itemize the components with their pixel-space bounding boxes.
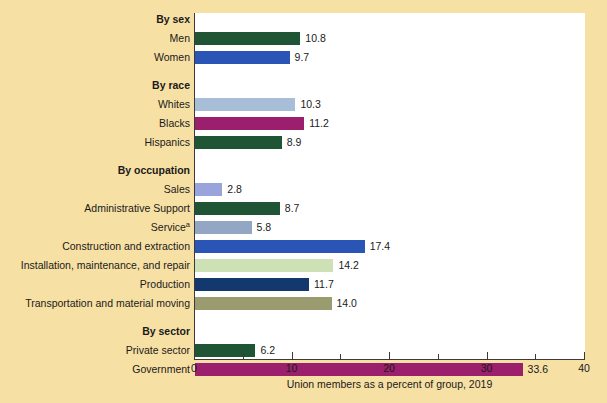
- chart-bar-row: Servicea5.8: [0, 221, 607, 234]
- chart-group-heading-row: By sector: [0, 325, 607, 338]
- bar-value-label: 9.7: [295, 51, 310, 64]
- chart-bar-row: Administrative Support8.7: [0, 202, 607, 215]
- bar-value-label: 33.6: [528, 363, 548, 376]
- bar-value-label: 11.7: [314, 278, 334, 291]
- x-axis-minor-tick: [535, 354, 536, 359]
- chart-bar-row: Private sector6.2: [0, 344, 607, 357]
- x-axis-tick-label: 40: [564, 362, 604, 374]
- bar-value-label: 17.4: [370, 240, 390, 253]
- bar-value-label: 10.3: [300, 98, 320, 111]
- bar-category-label: Government: [0, 363, 190, 376]
- bar: [195, 297, 332, 310]
- bar: [195, 32, 300, 45]
- bar-value-label: 14.2: [338, 259, 358, 272]
- bar-category-label: Hispanics: [0, 136, 190, 149]
- x-axis-title: Union members as a percent of group, 201…: [194, 378, 585, 390]
- bar-value-label: 2.8: [227, 183, 242, 196]
- bar-category-label: Private sector: [0, 344, 190, 357]
- chart-rows: By sexMen10.8Women9.7By raceWhites10.3Bl…: [0, 13, 607, 360]
- bar-category-label: Transportation and material moving: [0, 297, 190, 310]
- bar: [195, 259, 333, 272]
- chart-bar-row: Men10.8: [0, 32, 607, 45]
- bar-value-label: 5.8: [257, 221, 272, 234]
- bar: [195, 51, 290, 64]
- union-membership-bar-chart: By sexMen10.8Women9.7By raceWhites10.3Bl…: [0, 0, 607, 403]
- y-axis-line: [194, 13, 195, 360]
- bar-value-label: 10.8: [305, 32, 325, 45]
- bar-category-label: Servicea: [0, 221, 190, 234]
- bar-value-label: 8.7: [285, 202, 300, 215]
- bar-category-label: Production: [0, 278, 190, 291]
- bar-category-label: Men: [0, 32, 190, 45]
- chart-bar-row: Transportation and material moving14.0: [0, 297, 607, 310]
- group-heading-label: By sex: [0, 13, 190, 26]
- bar-value-label: 11.2: [309, 117, 329, 130]
- bar-value-label: 8.9: [287, 136, 302, 149]
- chart-bar-row: Whites10.3: [0, 98, 607, 111]
- x-axis-tick: [584, 352, 585, 359]
- x-axis-tick: [292, 352, 293, 359]
- bar: [195, 240, 365, 253]
- chart-group-heading-row: By sex: [0, 13, 607, 26]
- group-heading-label: By sector: [0, 325, 190, 338]
- x-axis-tick-label: 0: [174, 362, 214, 374]
- bar: [195, 344, 255, 357]
- bar-value-label: 6.2: [260, 344, 275, 357]
- bar: [195, 117, 304, 130]
- bar-category-label: Blacks: [0, 117, 190, 130]
- x-axis-minor-tick: [243, 354, 244, 359]
- chart-bar-row: Construction and extraction17.4: [0, 240, 607, 253]
- bar: [195, 136, 282, 149]
- bar: [195, 98, 295, 111]
- bar: [195, 278, 309, 291]
- x-axis-tick-label: 20: [369, 362, 409, 374]
- bar: [195, 202, 280, 215]
- chart-group-heading-row: By occupation: [0, 164, 607, 177]
- x-axis-tick: [389, 352, 390, 359]
- group-heading-label: By race: [0, 79, 190, 92]
- x-axis-tick-label: 10: [272, 362, 312, 374]
- bar-category-label: Women: [0, 51, 190, 64]
- chart-bar-row: Blacks11.2: [0, 117, 607, 130]
- bar-category-label: Administrative Support: [0, 202, 190, 215]
- chart-bar-row: Installation, maintenance, and repair14.…: [0, 259, 607, 272]
- bar-category-label: Whites: [0, 98, 190, 111]
- bar-category-label: Sales: [0, 183, 190, 196]
- x-axis-tick: [487, 352, 488, 359]
- bar-value-label: 14.0: [337, 297, 357, 310]
- chart-bar-row: Women9.7: [0, 51, 607, 64]
- bar-category-label: Construction and extraction: [0, 240, 190, 253]
- bar: [195, 183, 222, 196]
- chart-bar-row: Production11.7: [0, 278, 607, 291]
- x-axis-minor-tick: [438, 354, 439, 359]
- bar: [195, 221, 252, 234]
- chart-bar-row: Sales2.8: [0, 183, 607, 196]
- group-heading-label: By occupation: [0, 164, 190, 177]
- bar-category-label: Installation, maintenance, and repair: [0, 259, 190, 272]
- x-axis-tick-label: 30: [467, 362, 507, 374]
- x-axis-minor-tick: [340, 354, 341, 359]
- chart-bar-row: Hispanics8.9: [0, 136, 607, 149]
- footnote-marker: a: [186, 220, 190, 229]
- x-axis-line: [194, 359, 585, 360]
- chart-group-heading-row: By race: [0, 79, 607, 92]
- x-axis-tick: [194, 352, 195, 359]
